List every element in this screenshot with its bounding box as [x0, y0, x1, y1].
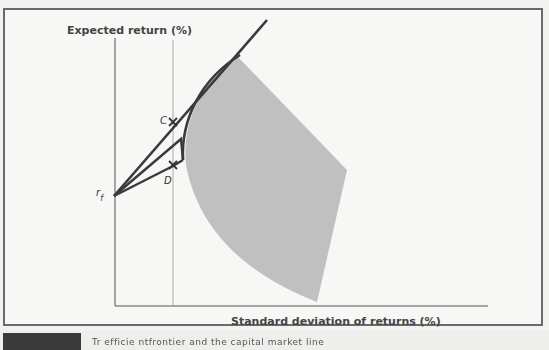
x-axis-label: Standard deviation of returns (%): [231, 315, 441, 328]
figure-number-tab: [3, 333, 81, 350]
rf-label: rf: [96, 187, 104, 203]
feasible-set-region: [185, 57, 347, 302]
point-d-label: D: [164, 175, 172, 186]
figure-caption: Tr efficie ntfrontier and the capital ma…: [92, 337, 324, 347]
y-axis-label: Expected return (%): [67, 24, 192, 37]
point-c-label: C: [160, 115, 167, 126]
efficient-frontier-chart: Expected return (%) Standard deviation o…: [0, 0, 549, 330]
